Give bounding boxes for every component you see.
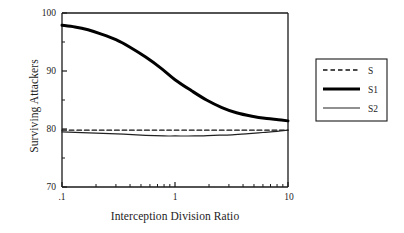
axis-frame [62, 13, 288, 187]
chart-figure: Surviving Attackers Interception Divisio… [0, 0, 404, 233]
y-tick-label-80: 80 [26, 124, 56, 134]
data-series-layer [62, 25, 288, 136]
x-axis-ticks [62, 182, 288, 187]
y-tick-label-70: 70 [26, 182, 56, 192]
x-tick-label-point1: .1 [47, 192, 77, 202]
y-axis-title: Surviving Attackers [28, 26, 40, 186]
legend-label-s: S [368, 66, 373, 76]
series-line-s2 [62, 130, 288, 136]
series-line-s1 [62, 25, 288, 121]
y-axis-ticks [62, 13, 67, 187]
x-tick-label-1: 1 [160, 192, 190, 202]
y-tick-label-90: 90 [26, 66, 56, 76]
y-tick-label-100: 100 [26, 8, 56, 18]
x-tick-label-10: 10 [274, 192, 304, 202]
legend-label-s2: S2 [368, 104, 378, 114]
legend-label-s1: S1 [368, 85, 378, 95]
x-axis-title: Interception Division Ratio [62, 210, 288, 222]
